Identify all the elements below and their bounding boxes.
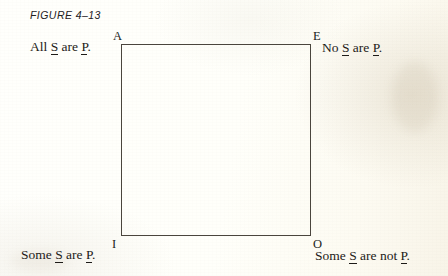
proposition-i-prefix: Some [21, 247, 55, 262]
proposition-o-subject: S [349, 248, 357, 264]
proposition-a-prefix: All [30, 39, 51, 54]
figure-caption: FIGURE 4–13 [30, 9, 101, 21]
corner-label-a: A [113, 30, 122, 43]
proposition-o-middle: are not [357, 248, 401, 263]
proposition-i-suffix: . [92, 247, 95, 262]
proposition-e-middle: are [349, 40, 372, 55]
proposition-i: Some S are P. [21, 248, 95, 262]
proposition-e: No S are P. [322, 41, 382, 55]
figure-page: FIGURE 4–13 A E I O All S are P. No S ar… [0, 0, 448, 276]
proposition-a-middle: are [58, 39, 81, 54]
proposition-i-subject: S [55, 247, 63, 263]
proposition-o-prefix: Some [315, 248, 349, 263]
proposition-a: All S are P. [30, 40, 91, 54]
proposition-i-middle: are [63, 247, 86, 262]
proposition-a-suffix: . [87, 39, 90, 54]
proposition-e-suffix: . [379, 40, 382, 55]
proposition-e-prefix: No [322, 40, 342, 55]
proposition-o-suffix: . [407, 248, 410, 263]
corner-label-e: E [313, 30, 321, 43]
scan-smudge [392, 62, 438, 132]
square-of-opposition-outline [121, 44, 311, 236]
corner-label-i: I [112, 238, 116, 251]
proposition-o: Some S are not P. [315, 249, 410, 263]
